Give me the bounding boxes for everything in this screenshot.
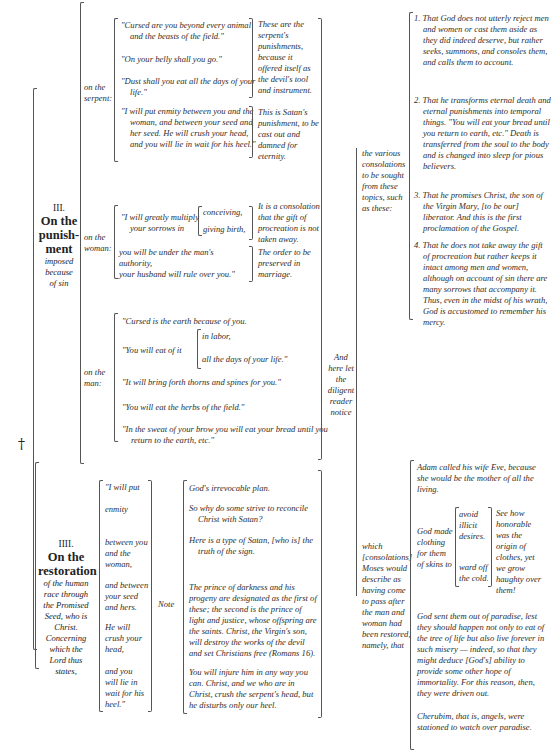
phrase-5: He will crush your head, bbox=[105, 622, 145, 655]
consolation-item-2: 2. That he transforms eternal death and … bbox=[414, 95, 551, 172]
serpent-quote-4: "I will put enmity between you and the w… bbox=[121, 106, 260, 150]
man-quote-3: "It will bring forth thorns and spines f… bbox=[122, 377, 281, 388]
reader-notice: And here let the diligent reader notice bbox=[322, 352, 360, 418]
cherubim-text: Cherubim, that is, angels, were statione… bbox=[417, 711, 545, 733]
section-4-number: IIII. bbox=[38, 538, 94, 550]
serpent-quote-2: "On your belly shall you go." bbox=[121, 54, 256, 65]
serpent-gloss-1: These are the serpent's punishments, bec… bbox=[258, 19, 318, 96]
woman-gloss-2-bracket bbox=[249, 246, 253, 282]
section-4-heading: IIII. On the restoration of the human ra… bbox=[38, 538, 94, 677]
man-option-2: all the days of your life." bbox=[202, 354, 287, 365]
woman-quote-2a: you will be under the man's authority, bbox=[119, 247, 249, 269]
consolation-item-4: 4. That he does not take away the gift o… bbox=[414, 240, 551, 328]
adam-eve-text: Adam called his wife Eve, because she wo… bbox=[417, 462, 545, 495]
woman-option-2: giving birth, bbox=[203, 224, 246, 235]
note-5: You will injure him in any way you can. … bbox=[189, 667, 317, 711]
man-bracket bbox=[114, 313, 118, 442]
consolation-item-3: 3. That he promises Christ, the son of t… bbox=[414, 190, 551, 234]
clothing-purpose-1: avoid illicit desires. bbox=[459, 509, 487, 542]
notes-bracket bbox=[183, 480, 187, 714]
man-label: on the man: bbox=[84, 367, 105, 389]
section-3-heading: III. On the punish- ment imposed because… bbox=[36, 202, 82, 289]
woman-bracket bbox=[114, 205, 118, 279]
moses-label: which [consolations] Moses would describ… bbox=[362, 541, 412, 651]
man-option-1: in labor, bbox=[202, 331, 231, 342]
section-3-number: III. bbox=[36, 202, 82, 214]
paradise-text: God sent them out of paradise, lest they… bbox=[417, 611, 545, 699]
woman-option-1: conceiving, bbox=[203, 207, 242, 218]
woman-label: on the woman: bbox=[84, 232, 112, 254]
consolations-bracket bbox=[409, 12, 413, 320]
serpent-quote-3: "Dust shall you eat all the days of your… bbox=[121, 76, 256, 98]
woman-gloss-1-bracket bbox=[249, 206, 253, 240]
serpent-gloss-2: This is Satan's punishment, to be cast o… bbox=[258, 107, 322, 162]
serpent-gloss-2-bracket bbox=[249, 106, 253, 158]
note-4: The prince of darkness and his progeny a… bbox=[189, 582, 317, 659]
dagger-symbol: † bbox=[18, 436, 25, 452]
clothing-right-bracket bbox=[488, 507, 492, 587]
woman-quote-2b: your husband will rule over you." bbox=[119, 269, 249, 280]
serpent-quote-1: "Cursed are you beyond every animal and … bbox=[121, 20, 256, 42]
note-1: God's irrevocable plan. bbox=[189, 483, 317, 494]
woman-quote-1: "I will greatly multiply your sorrows in bbox=[121, 212, 206, 234]
woman-options-bracket bbox=[198, 206, 202, 236]
phrase-6: and you will lie in wait for his heel." bbox=[105, 666, 145, 710]
phrase-1: "I will put bbox=[105, 482, 151, 493]
phrase-2: enmity bbox=[105, 504, 151, 515]
man-quote-4: "You will eat the herbs of the field." bbox=[122, 402, 244, 413]
woman-gloss-1: It is a consolation that the gift of pro… bbox=[258, 201, 324, 245]
phrase-4: and between your seed and hers. bbox=[105, 580, 149, 613]
notice-vertical-line bbox=[356, 148, 357, 596]
man-quote-5: "In the sweat of your brow you will eat … bbox=[122, 424, 331, 446]
note-label: Note bbox=[158, 599, 174, 610]
phrases-right-bracket bbox=[148, 480, 152, 712]
serpent-gloss-1-bracket bbox=[249, 18, 253, 98]
woman-gloss-2: The order to be preserved in marriage. bbox=[258, 247, 318, 280]
note-2: So why do some strive to reconcile Chris… bbox=[189, 503, 326, 525]
phrase-3: between you and the woman, bbox=[105, 537, 149, 570]
note-3: Here is a type of Satan, [who is] the tr… bbox=[189, 535, 326, 557]
serpent-label: on the serpent: bbox=[84, 82, 112, 104]
consolations-label: the various consolations to be sought fr… bbox=[362, 148, 405, 214]
man-options-bracket bbox=[197, 329, 201, 369]
man-quote-2: "You will eat of it bbox=[122, 345, 182, 356]
clothing-purpose-2: ward off the cold. bbox=[459, 562, 489, 584]
clothing-gloss: See how honorable was the origin of clot… bbox=[496, 508, 544, 596]
serpent-bracket bbox=[114, 18, 118, 162]
notes-right-bracket bbox=[318, 470, 322, 718]
clothing-label: God made clothing for them of skins to bbox=[417, 526, 453, 570]
consolation-item-1: 1. That God does not utterly reject men … bbox=[414, 13, 551, 68]
moses-bracket bbox=[410, 460, 414, 750]
phrases-bracket bbox=[99, 480, 103, 712]
man-quote-1: "Cursed is the earth because of you. bbox=[122, 316, 247, 327]
